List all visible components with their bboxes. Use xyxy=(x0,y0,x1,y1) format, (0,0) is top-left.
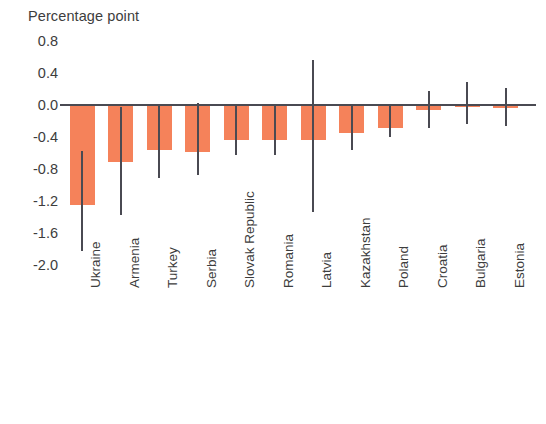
error-bar-ukraine xyxy=(81,151,83,251)
y-axis-tick-label: -2.0 xyxy=(2,257,58,273)
error-bar-latvia xyxy=(312,60,314,212)
error-bar-armenia xyxy=(120,107,122,215)
error-bar-romania xyxy=(274,105,276,155)
x-axis-label-serbia: Serbia xyxy=(204,249,219,288)
error-bar-kazakhstan xyxy=(351,105,353,150)
x-axis-label-ukraine: Ukraine xyxy=(88,241,103,288)
y-axis-tick-labels: 0.80.40.0-0.4-0.8-1.2-1.6-2.0 xyxy=(0,0,58,424)
x-axis-label-turkey: Turkey xyxy=(165,247,180,288)
y-axis-tick-label: -0.8 xyxy=(2,161,58,177)
error-bar-slovak-republic xyxy=(235,105,237,155)
bar-chart: Percentage point 0.80.40.0-0.4-0.8-1.2-1… xyxy=(0,0,546,424)
x-axis-label-romania: Romania xyxy=(281,234,296,288)
error-bar-croatia xyxy=(428,91,430,128)
x-axis-label-kazakhstan: Kazakhstan xyxy=(358,217,373,288)
error-bar-poland xyxy=(389,105,391,137)
plot-area: UkraineArmeniaTurkeySerbiaSlovak Republi… xyxy=(62,0,536,424)
y-axis-tick-label: 0.8 xyxy=(2,33,58,49)
x-axis-label-poland: Poland xyxy=(396,246,411,288)
error-bar-bulgaria xyxy=(466,82,468,124)
y-axis-tick-label: -1.6 xyxy=(2,225,58,241)
y-axis-tick-label: -1.2 xyxy=(2,193,58,209)
x-axis-label-croatia: Croatia xyxy=(435,244,450,288)
y-axis-tick-label: 0.0 xyxy=(2,97,58,113)
error-bar-serbia xyxy=(197,103,199,174)
zero-baseline xyxy=(60,104,536,106)
x-axis-label-bulgaria: Bulgaria xyxy=(473,238,488,288)
x-axis-label-slovak-republic: Slovak Republic xyxy=(242,191,257,288)
error-bar-turkey xyxy=(158,105,160,178)
x-axis-label-latvia: Latvia xyxy=(319,252,334,288)
y-axis-tick-label: -0.4 xyxy=(2,129,58,145)
y-axis-tick-label: 0.4 xyxy=(2,65,58,81)
x-axis-label-armenia: Armenia xyxy=(127,238,142,288)
x-axis-label-estonia: Estonia xyxy=(512,243,527,288)
error-bar-estonia xyxy=(505,88,507,126)
